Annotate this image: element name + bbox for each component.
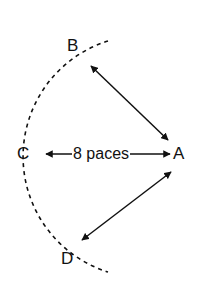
point-label-a: A [173, 145, 184, 162]
distance-label: 8 paces [72, 146, 130, 162]
diagram-graphics [0, 0, 203, 281]
point-label-b: B [67, 37, 78, 54]
diagram-canvas: B C A D 8 paces [0, 0, 203, 281]
arrow-a-d [82, 172, 171, 240]
point-label-c: C [17, 145, 29, 162]
point-label-d: D [61, 250, 73, 267]
arrow-a-b [91, 66, 168, 140]
